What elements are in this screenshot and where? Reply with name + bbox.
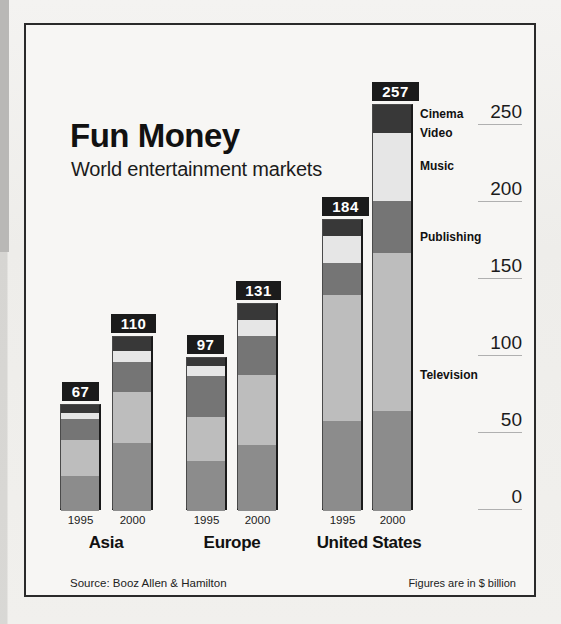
y-tick-200: 200 xyxy=(478,179,522,202)
bar-value-asia-2000: 110 xyxy=(111,314,156,333)
page-edge-shadow xyxy=(0,0,9,252)
x-label-asia-2000: 2000 xyxy=(110,514,155,526)
chart-plot-area: Fun Money World entertainment markets 25… xyxy=(26,25,534,595)
bar-value-europe-1995: 97 xyxy=(187,335,224,354)
x-label-us-2000: 2000 xyxy=(370,514,415,526)
legend-label-cinema: Cinema xyxy=(420,107,463,121)
segment-cinema xyxy=(373,105,411,133)
segment-publishing xyxy=(238,375,276,445)
segment-television xyxy=(61,476,99,511)
bar-asia-1995[interactable] xyxy=(60,404,101,510)
legend-label-publishing: Publishing xyxy=(420,230,481,244)
segment-television xyxy=(323,421,361,511)
source-note: Source: Booz Allen & Hamilton xyxy=(70,577,227,589)
bar-asia-2000[interactable] xyxy=(112,336,153,510)
segment-television xyxy=(187,461,225,511)
bar-us-2000[interactable] xyxy=(372,104,413,510)
group-label-united-states: United States xyxy=(304,533,434,553)
segment-music xyxy=(238,336,276,375)
x-label-europe-2000: 2000 xyxy=(235,514,280,526)
segment-publishing xyxy=(113,392,151,443)
page-subtitle: World entertainment markets xyxy=(71,159,322,179)
segment-video xyxy=(373,133,411,201)
segment-cinema xyxy=(113,337,151,351)
segment-publishing xyxy=(187,417,225,461)
segment-publishing xyxy=(323,295,361,421)
y-tick-100: 100 xyxy=(478,333,522,356)
segment-music xyxy=(323,263,361,295)
bar-value-us-2000: 257 xyxy=(372,82,419,101)
segment-television xyxy=(238,445,276,511)
segment-cinema xyxy=(238,304,276,320)
y-tick-0: 0 xyxy=(478,487,522,510)
x-label-europe-1995: 1995 xyxy=(184,514,229,526)
y-tick-150: 150 xyxy=(478,256,522,279)
segment-publishing xyxy=(373,253,411,411)
segment-video xyxy=(113,351,151,362)
chart-frame: Fun Money World entertainment markets 25… xyxy=(24,23,536,597)
page-title: Fun Money xyxy=(70,119,240,152)
segment-publishing xyxy=(61,440,99,476)
x-label-us-1995: 1995 xyxy=(320,514,365,526)
segment-video xyxy=(187,366,225,376)
y-tick-250: 250 xyxy=(478,102,522,125)
group-label-asia: Asia xyxy=(56,533,156,553)
y-tick-50: 50 xyxy=(478,410,522,433)
segment-cinema xyxy=(61,405,99,413)
bar-europe-1995[interactable] xyxy=(186,357,227,510)
segment-music xyxy=(373,201,411,253)
segment-music xyxy=(113,362,151,392)
legend-label-television: Television xyxy=(420,368,478,382)
x-label-asia-1995: 1995 xyxy=(58,514,103,526)
segment-cinema xyxy=(187,358,225,366)
units-note: Figures are in $ billion xyxy=(408,577,516,589)
segment-television xyxy=(113,443,151,511)
bar-value-asia-1995: 67 xyxy=(62,382,99,401)
legend-label-video: Video xyxy=(420,126,452,140)
legend-label-music: Music xyxy=(420,159,454,173)
segment-video xyxy=(323,236,361,263)
segment-music xyxy=(187,376,225,417)
group-label-europe: Europe xyxy=(181,533,283,553)
bar-value-us-1995: 184 xyxy=(322,197,369,216)
bar-us-1995[interactable] xyxy=(322,219,363,510)
segment-music xyxy=(61,419,99,440)
bar-europe-2000[interactable] xyxy=(237,303,278,510)
segment-television xyxy=(373,411,411,511)
segment-video xyxy=(238,320,276,336)
segment-cinema xyxy=(323,220,361,236)
bar-value-europe-2000: 131 xyxy=(236,281,281,300)
